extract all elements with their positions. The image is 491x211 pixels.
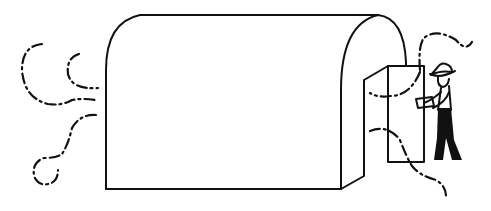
- hut-illustration: [0, 0, 491, 211]
- open-door: [388, 66, 424, 162]
- dashed-wind-trails-right: [370, 33, 472, 196]
- illustration-canvas: Quonset-style hut with open door and a c…: [0, 0, 491, 211]
- cowboy-figure: [416, 64, 462, 161]
- dashed-wind-trails-left: [22, 44, 98, 184]
- hut-body: [106, 15, 378, 189]
